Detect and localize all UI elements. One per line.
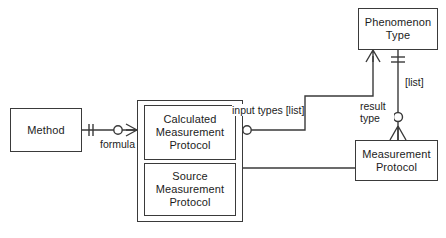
label-result-type: result type [360, 100, 394, 124]
marker-zero-formula [114, 126, 122, 134]
entity-phenomenon-type-line2: Type [365, 29, 431, 42]
marker-many-result-type [390, 126, 406, 140]
entity-measurement-protocol-line2: Protocol [362, 161, 430, 174]
marker-many-formula [126, 124, 137, 136]
entity-method[interactable]: Method [10, 108, 82, 152]
entity-calculated-measurement-protocol[interactable]: Calculated Measurement Protocol [144, 105, 236, 160]
label-list-modifier: [list] [405, 76, 424, 88]
entity-source-measurement-protocol-line1: Source [156, 170, 224, 183]
marker-zero-result-type [394, 113, 403, 122]
entity-method-label: Method [27, 124, 64, 137]
entity-phenomenon-type-line1: Phenomenon [365, 16, 431, 29]
entity-measurement-protocol-line1: Measurement [362, 148, 430, 161]
wire-input-types [243, 56, 373, 130]
label-formula: formula [100, 138, 135, 150]
entity-calculated-measurement-protocol-line1: Calculated [156, 113, 224, 126]
label-input-types: input types [list] [232, 104, 304, 116]
label-result-type-line1: result [360, 100, 394, 112]
entity-calculated-measurement-protocol-line3: Protocol [156, 139, 224, 152]
entity-phenomenon-type[interactable]: Phenomenon Type [358, 8, 438, 50]
entity-source-measurement-protocol-line3: Protocol [156, 196, 224, 209]
marker-zero-input-types [243, 126, 251, 134]
marker-many-phenomenon-input [366, 50, 380, 62]
entity-source-measurement-protocol-line2: Measurement [156, 183, 224, 196]
entity-calculated-measurement-protocol-line2: Measurement [156, 126, 224, 139]
entity-source-measurement-protocol[interactable]: Source Measurement Protocol [144, 163, 236, 216]
label-result-type-line2: type [360, 112, 394, 124]
er-diagram-canvas: Method Calculated Measurement Protocol S… [0, 0, 446, 238]
entity-measurement-protocol[interactable]: Measurement Protocol [355, 140, 438, 181]
